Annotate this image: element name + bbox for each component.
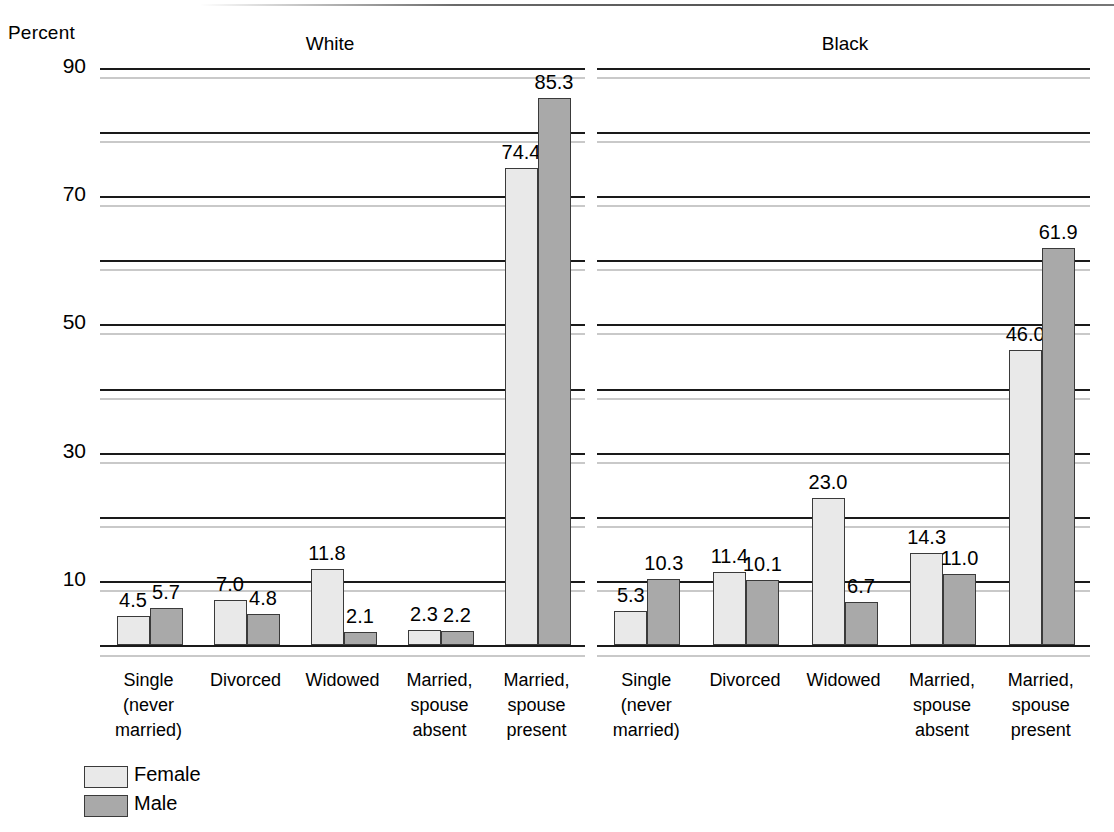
baseline-axis <box>100 645 585 647</box>
bar-female <box>812 498 845 645</box>
baseline-axis-shadow <box>100 655 585 657</box>
bar-male <box>845 602 878 645</box>
category-label-line: present <box>986 718 1096 743</box>
panel-title-black: Black <box>745 33 945 55</box>
bar-male <box>943 574 976 645</box>
category-label-line: Married, <box>986 668 1096 693</box>
category-label: Married,spousepresent <box>986 668 1096 743</box>
bar-male <box>1042 248 1075 645</box>
bar-female <box>505 168 538 645</box>
y-axis-title: Percent <box>8 22 75 44</box>
category-label: Widowed <box>288 668 398 693</box>
category-label-line: (never <box>94 693 204 718</box>
category-label-line: spouse <box>482 693 592 718</box>
category-label-line: spouse <box>887 693 997 718</box>
category-label-line: Widowed <box>288 668 398 693</box>
bar-male <box>247 614 280 645</box>
bar-female <box>614 611 647 645</box>
y-tick-label-70: 70 <box>30 182 86 206</box>
bar-male <box>538 98 571 645</box>
category-label-line: Single <box>94 668 204 693</box>
category-label-line: Divorced <box>191 668 301 693</box>
gridline-70 <box>597 196 1090 198</box>
category-label-line: absent <box>887 718 997 743</box>
category-label-line: (never <box>591 693 701 718</box>
baseline-axis <box>597 645 1090 647</box>
category-label: Divorced <box>690 668 800 693</box>
y-tick-label-30: 30 <box>30 439 86 463</box>
baseline-axis-shadow <box>597 655 1090 657</box>
category-label-line: Widowed <box>789 668 899 693</box>
bar-value-label: 61.9 <box>1028 221 1088 244</box>
bar-female <box>408 630 441 645</box>
panel-title-white: White <box>230 33 430 55</box>
bar-female <box>713 572 746 645</box>
category-label-line: married) <box>94 718 204 743</box>
bar-male <box>344 632 377 645</box>
legend-label-male: Male <box>134 792 177 815</box>
category-label: Single(nevermarried) <box>591 668 701 743</box>
bar-male <box>647 579 680 645</box>
bar-female <box>1009 350 1042 645</box>
bar-value-label: 14.3 <box>897 526 957 549</box>
bar-value-label: 11.8 <box>297 542 357 565</box>
gridline-60 <box>597 260 1090 262</box>
bar-value-label: 4.8 <box>233 587 293 610</box>
bar-value-label: 2.1 <box>330 605 390 628</box>
gridline-80 <box>100 132 585 134</box>
category-label: Single(nevermarried) <box>94 668 204 743</box>
category-label: Married,spouseabsent <box>385 668 495 743</box>
gridline-shadow-90 <box>100 77 585 79</box>
category-label-line: spouse <box>385 693 495 718</box>
category-label-line: spouse <box>986 693 1096 718</box>
scan-artifact <box>200 4 1114 6</box>
bar-value-label: 85.3 <box>524 71 584 94</box>
category-label: Divorced <box>191 668 301 693</box>
gridline-shadow-60 <box>597 269 1090 271</box>
chart-canvas: Percent White Black 9070503010 4.55.77.0… <box>0 0 1114 832</box>
bar-male <box>441 631 474 645</box>
gridline-90 <box>100 68 585 70</box>
gridline-80 <box>597 132 1090 134</box>
category-label-line: married) <box>591 718 701 743</box>
bar-value-label: 23.0 <box>798 471 858 494</box>
legend-swatch-male <box>84 795 128 817</box>
gridline-90 <box>597 68 1090 70</box>
category-label-line: absent <box>385 718 495 743</box>
bar-value-label: 10.1 <box>732 553 792 576</box>
category-label-line: Single <box>591 668 701 693</box>
bar-value-label: 11.0 <box>930 547 990 570</box>
bar-value-label: 5.7 <box>136 581 196 604</box>
category-label-line: Married, <box>482 668 592 693</box>
category-label: Widowed <box>789 668 899 693</box>
gridline-shadow-90 <box>597 77 1090 79</box>
category-label: Married,spousepresent <box>482 668 592 743</box>
gridline-shadow-70 <box>597 205 1090 207</box>
bar-male <box>150 608 183 645</box>
y-tick-label-50: 50 <box>30 310 86 334</box>
category-label-line: present <box>482 718 592 743</box>
bar-female <box>117 616 150 645</box>
y-tick-label-10: 10 <box>30 567 86 591</box>
y-tick-label-90: 90 <box>30 54 86 78</box>
bar-value-label: 6.7 <box>831 575 891 598</box>
bar-value-label: 10.3 <box>634 552 694 575</box>
category-label-line: Married, <box>887 668 997 693</box>
legend-swatch-female <box>84 766 128 788</box>
gridline-shadow-80 <box>597 141 1090 143</box>
category-label-line: Divorced <box>690 668 800 693</box>
legend-label-female: Female <box>134 763 201 786</box>
bar-value-label: 2.2 <box>427 604 487 627</box>
category-label-line: Married, <box>385 668 495 693</box>
bar-male <box>746 580 779 645</box>
category-label: Married,spouseabsent <box>887 668 997 743</box>
